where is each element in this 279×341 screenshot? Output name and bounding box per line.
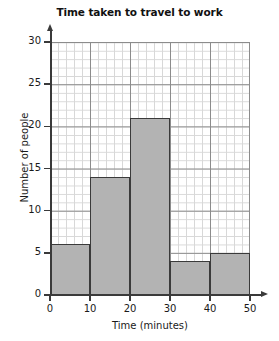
x-axis-tick [169,295,171,301]
x-axis-tick-label: 40 [190,303,230,314]
x-axis-tick-label: 30 [150,303,190,314]
x-axis-tick-label: 50 [230,303,270,314]
y-axis-tick [44,168,50,170]
bar [50,244,90,295]
y-axis-arrow-icon [47,24,53,31]
x-axis-line [50,294,262,296]
y-axis-tick [44,126,50,128]
x-axis-tick [89,295,91,301]
x-axis-tick [49,295,51,301]
x-axis-tick [129,295,131,301]
bar [210,253,250,295]
y-axis-tick-label: 5 [1,246,41,257]
plot-area [50,42,250,295]
y-axis-tick-label: 30 [1,35,41,46]
y-axis-title: Number of people [19,73,30,243]
y-axis-tick [44,41,50,43]
y-axis-tick [44,83,50,85]
chart-title: Time taken to travel to work [0,6,279,18]
bar [170,261,210,295]
x-axis-tick [249,295,251,301]
y-axis-tick-label: 0 [1,288,41,299]
bar [90,177,130,295]
x-axis-arrow-icon [261,291,268,297]
x-axis-tick [209,295,211,301]
y-axis-line [50,30,52,296]
histogram-chart: Time taken to travel to work 05101520253… [0,0,279,341]
x-axis-tick-label: 20 [110,303,150,314]
x-axis-title: Time (minutes) [50,320,250,331]
x-axis-tick-label: 0 [30,303,70,314]
x-axis-tick-label: 10 [70,303,110,314]
y-axis-tick [44,252,50,254]
bar [130,118,170,295]
bars-layer [50,42,250,295]
y-axis-tick [44,210,50,212]
